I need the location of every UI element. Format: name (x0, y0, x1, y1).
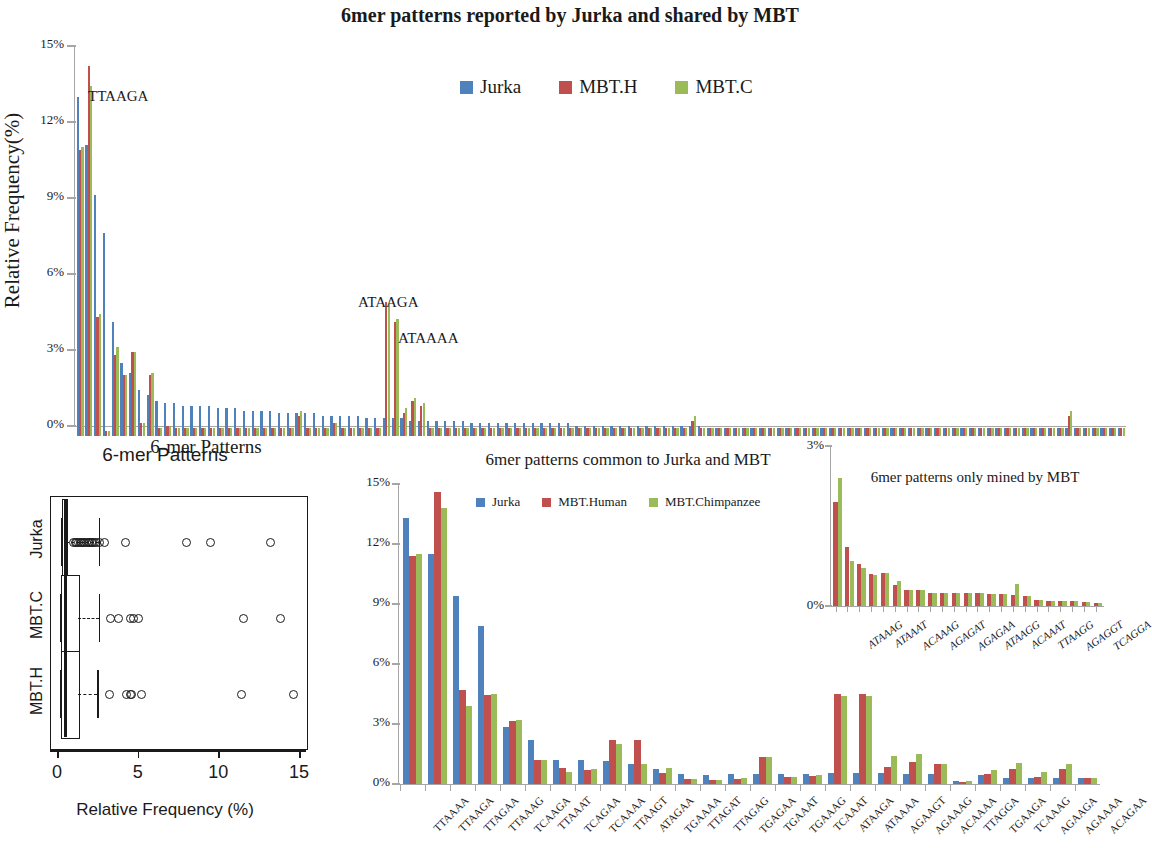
top-chart-bar (1035, 428, 1037, 436)
top-chart-bar (361, 428, 363, 436)
top-chart-bar (799, 428, 801, 436)
top-chart-bar (519, 428, 521, 436)
inset-x-tick (1072, 607, 1073, 612)
top-chart-bar (256, 428, 258, 436)
inset-x-tick (1025, 607, 1026, 612)
top-chart-bar (239, 428, 241, 436)
boxplot-outlier (137, 690, 146, 699)
boxplot-whisker-cap (61, 518, 62, 566)
common-chart-y-tick-label: 9% (346, 594, 390, 610)
top-chart-bar (650, 428, 652, 436)
top-chart-y-axis-title: Relative Frequency(%) (0, 51, 25, 371)
inset-x-tick (918, 607, 919, 612)
common-chart-x-tick (725, 785, 726, 791)
top-chart-bar (904, 428, 906, 436)
common-chart-bar (816, 775, 822, 784)
inset-axis-line (832, 606, 1104, 607)
top-chart-annotation: ATAAAA (398, 330, 458, 347)
common-chart-x-tick (525, 785, 526, 791)
top-chart-bar (466, 428, 468, 436)
inset-x-tick (836, 607, 837, 612)
boxplot-x-tick-label: 15 (279, 762, 319, 783)
top-chart-bar (213, 428, 215, 436)
top-chart-bar (248, 428, 250, 436)
top-chart-bar (493, 428, 495, 436)
common-chart-x-tick (1050, 785, 1051, 791)
top-chart-bar (326, 428, 328, 436)
inset-bar (1098, 603, 1102, 606)
top-chart-bar (773, 428, 775, 436)
mbt-only-chart-panel: 6mer patterns only mined by MBT 0%3% ATA… (790, 438, 1140, 678)
top-chart-bar (956, 428, 958, 436)
boxplot-group-label-mbt-h: MBT.H (28, 646, 46, 736)
top-chart-bar (344, 428, 346, 436)
inset-bar (1086, 602, 1090, 606)
mbt-only-plot-area: 0%3% (832, 446, 1104, 606)
top-chart-bar (1096, 428, 1098, 436)
inset-bar (968, 593, 972, 606)
common-chart-y-tick (392, 783, 400, 784)
top-chart-bar (729, 428, 731, 436)
top-chart-bar (921, 428, 923, 436)
top-chart-bar (458, 428, 460, 436)
common-chart-bar (766, 757, 772, 784)
inset-x-tick (977, 607, 978, 612)
boxplot-x-axis (50, 750, 306, 752)
boxplot-median (64, 575, 67, 661)
top-chart-bar (143, 423, 145, 436)
common-chart-bar (916, 754, 922, 784)
boxplot-whisker-cap (99, 594, 100, 642)
top-chart-bar (230, 428, 232, 436)
top-chart-bar (825, 428, 827, 436)
boxplot-title: 6-mer Patterns (0, 444, 330, 466)
common-chart-x-tick (625, 785, 626, 791)
top-chart-bar (746, 428, 748, 436)
common-chart-bar (441, 508, 447, 784)
boxplot-outlier (239, 614, 248, 623)
top-chart-bar (685, 428, 687, 436)
top-chart-bar (291, 428, 293, 436)
inset-x-tick (883, 607, 884, 612)
common-chart-bar (566, 772, 572, 784)
top-chart-bar (895, 428, 897, 436)
top-chart-bar (265, 428, 267, 436)
boxplot-x-tick (218, 750, 220, 758)
top-chart-bar (169, 426, 171, 436)
common-chart-x-tick (975, 785, 976, 791)
common-chart-x-tick (825, 785, 826, 791)
common-chart-y-tick (392, 603, 400, 604)
common-chart-x-tick (775, 785, 776, 791)
common-chart-x-tick (900, 785, 901, 791)
common-chart-y-tick-label: 0% (346, 774, 390, 790)
inset-bar (850, 561, 854, 606)
boxplot-x-tick-label: 10 (198, 762, 238, 783)
top-chart-bar (151, 373, 153, 436)
top-chart-bar (353, 428, 355, 436)
top-chart-bar (834, 428, 836, 436)
top-chart-y-tick (67, 273, 76, 274)
top-chart-annotation: TTAAGA (88, 88, 148, 105)
boxplot-median (64, 651, 67, 737)
common-chart-bar (866, 696, 872, 784)
top-chart-bar (449, 428, 451, 436)
common-chart-y-tick (392, 723, 400, 724)
top-chart-bar (563, 428, 565, 436)
boxplot-x-tick (138, 750, 140, 758)
inset-x-tick (847, 607, 848, 612)
top-chart-bar (178, 428, 180, 436)
top-chart-bar (851, 428, 853, 436)
common-chart-x-tick (575, 785, 576, 791)
common-chart-bar (1016, 763, 1022, 784)
boxplot-whisker-cap (97, 670, 98, 718)
top-chart-bar (983, 428, 985, 436)
common-chart-x-tick (400, 785, 401, 791)
common-chart-x-tick (925, 785, 926, 791)
common-chart-bar (1066, 764, 1072, 784)
common-chart-x-tick (475, 785, 476, 791)
inset-bar (1062, 601, 1066, 606)
top-chart-bar (668, 428, 670, 436)
inset-x-tick (989, 607, 990, 612)
inset-x-tick (895, 607, 896, 612)
inset-y-tick (825, 445, 832, 446)
top-chart-bar (808, 428, 810, 436)
